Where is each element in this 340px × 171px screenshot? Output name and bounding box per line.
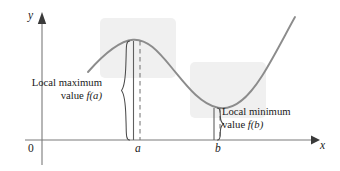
local-maximum-value-prefix: value (61, 89, 87, 101)
x-tick-label-b: b (215, 142, 221, 156)
local-maximum-line-1: Local maximum (32, 76, 102, 89)
local-minimum-line-1: Local minimum (222, 105, 291, 118)
maximum-highlight-region (100, 18, 176, 78)
local-minimum-function-argument: (b) (251, 118, 263, 130)
origin-label: 0 (28, 142, 34, 156)
x-tick-label-a: a (135, 142, 141, 156)
y-axis-arrowhead (38, 12, 46, 24)
calculus-extrema-figure: y x 0 a b Local maximum value f(a) Local… (0, 0, 340, 171)
local-maximum-annotation: Local maximum value f(a) (32, 76, 102, 101)
y-axis-label: y (28, 9, 33, 23)
local-maximum-line-2: value f(a) (32, 89, 102, 102)
local-minimum-value-prefix: value (222, 118, 248, 130)
local-minimum-annotation: Local minimum value f(b) (222, 105, 291, 130)
x-axis-label: x (320, 139, 325, 153)
local-minimum-line-2: value f(b) (222, 118, 291, 131)
local-maximum-function-argument: (a) (90, 89, 102, 101)
x-axis-arrowhead (311, 136, 320, 145)
